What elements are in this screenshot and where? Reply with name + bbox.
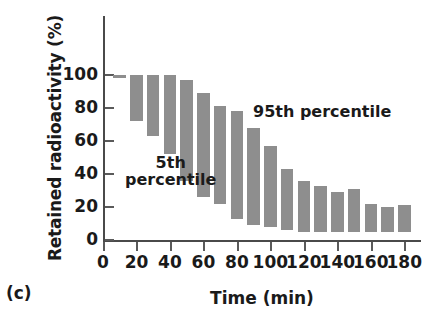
- y-tick-label-20: 20: [52, 198, 98, 215]
- y-tick-80: 80: [105, 107, 114, 109]
- x-axis-title: Time (min): [103, 288, 421, 308]
- bar-t90: [247, 128, 260, 225]
- x-tick-label-160: 160: [353, 254, 389, 271]
- x-tick-label-100: 100: [253, 254, 289, 271]
- bar-t110: [281, 169, 294, 230]
- x-tick-label-180: 180: [387, 254, 423, 271]
- bar-t160: [365, 204, 378, 232]
- x-tick-140: [337, 242, 339, 251]
- p95-annotation: 95th percentile: [253, 104, 391, 121]
- x-tick-60: [203, 242, 205, 251]
- x-tick-160: [371, 242, 373, 251]
- y-tick-60: 60: [105, 140, 114, 142]
- x-tick-label-60: 60: [192, 254, 216, 271]
- bar-t10: [113, 75, 126, 78]
- x-tick-label-20: 20: [125, 254, 149, 271]
- x-tick-label-140: 140: [320, 254, 356, 271]
- x-tick-80: [237, 242, 239, 251]
- x-tick-label-120: 120: [286, 254, 322, 271]
- y-tick-0: 0: [105, 239, 114, 241]
- x-tick-20: [136, 242, 138, 251]
- bar-t150: [348, 189, 361, 232]
- x-tick-label-40: 40: [158, 254, 182, 271]
- panel-letter: (c): [6, 283, 32, 303]
- x-tick-label-0: 0: [97, 254, 109, 271]
- bar-t120: [298, 181, 311, 232]
- p5-annotation-line: percentile: [125, 172, 216, 189]
- x-tick-label-80: 80: [225, 254, 249, 271]
- p5-annotation: 5thpercentile: [125, 155, 216, 189]
- bar-t40: [164, 75, 177, 154]
- bar-t180: [398, 205, 411, 231]
- y-tick-label-40: 40: [52, 165, 98, 182]
- y-tick-label-100: 100: [52, 66, 98, 83]
- y-tick-20: 20: [105, 206, 114, 208]
- y-tick-label-0: 0: [52, 231, 98, 248]
- bar-t140: [331, 192, 344, 232]
- x-tick-120: [304, 242, 306, 251]
- plot-area: 020406080100 020406080100120140160180 5t…: [103, 16, 421, 242]
- y-tick-label-60: 60: [52, 132, 98, 149]
- x-tick-180: [404, 242, 406, 251]
- y-axis-line: [103, 16, 105, 242]
- bar-t30: [147, 75, 160, 136]
- y-tick-40: 40: [105, 173, 114, 175]
- x-axis-line: [103, 240, 421, 242]
- x-tick-100: [270, 242, 272, 251]
- bar-t130: [314, 186, 327, 232]
- x-tick-40: [170, 242, 172, 251]
- x-tick-0: [103, 242, 105, 251]
- figure-panel-c: Retained radioactivity (%) 020406080100 …: [0, 0, 446, 330]
- y-tick-label-80: 80: [52, 99, 98, 116]
- bar-t100: [264, 146, 277, 227]
- bar-t80: [231, 111, 244, 218]
- bar-t20: [130, 75, 143, 121]
- bar-t170: [381, 207, 394, 232]
